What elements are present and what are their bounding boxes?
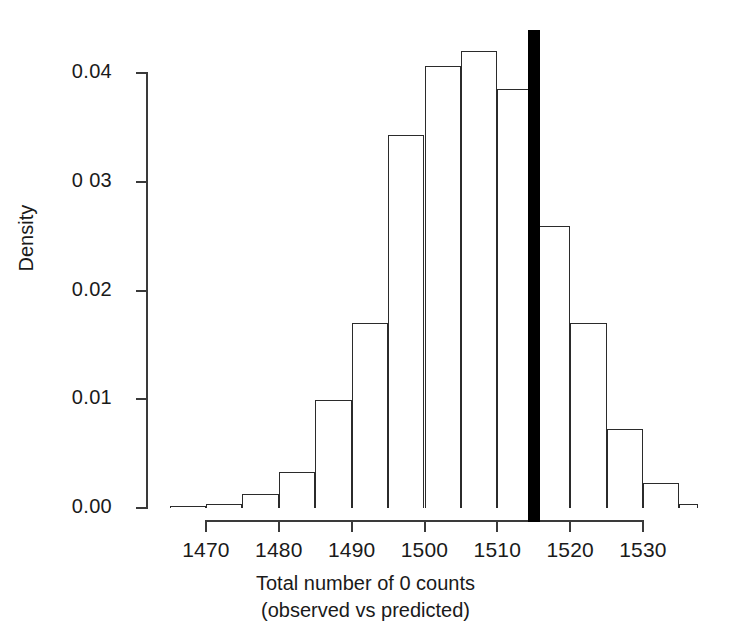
x-axis-tick (351, 520, 353, 532)
x-axis-tick (278, 520, 280, 532)
y-axis-tick-label: 0 03 (72, 169, 130, 192)
y-axis-tick (136, 290, 148, 292)
y-axis-tick (136, 507, 148, 509)
histogram-bar (206, 504, 242, 508)
histogram-bar (679, 504, 697, 508)
histogram-bar (279, 472, 315, 508)
y-axis-tick (136, 72, 148, 74)
y-axis-tick-label: 0.01 (72, 386, 130, 409)
histogram-figure: 0.000.010.020 030.04 1470148014901500151… (0, 0, 731, 644)
histogram-bar (315, 400, 351, 508)
y-axis-tick (136, 181, 148, 183)
x-axis-tick (642, 520, 644, 532)
x-axis-tick (496, 520, 498, 532)
histogram-bar (170, 506, 206, 508)
x-axis-title-line1: Total number of 0 counts (0, 570, 731, 597)
histogram-bar (643, 483, 679, 508)
x-axis-tick (569, 520, 571, 532)
y-axis-tick-label: 0.00 (72, 495, 130, 518)
histogram-bar (242, 494, 278, 508)
histogram-bar (607, 429, 643, 508)
x-axis-tick-label: 1530 (598, 538, 688, 562)
histogram-bar (570, 323, 606, 508)
histogram-bar (388, 135, 424, 508)
histogram-bar (352, 323, 388, 508)
x-axis-title: Total number of 0 counts (observed vs pr… (0, 570, 731, 624)
histogram-bar (425, 66, 461, 508)
histogram-bar (461, 51, 497, 508)
x-axis-title-line2: (observed vs predicted) (0, 597, 731, 624)
y-axis-title: Density (15, 232, 38, 272)
y-axis-tick-label: 0.02 (72, 278, 130, 301)
y-axis-tick-label: 0.04 (72, 60, 130, 83)
x-axis-tick (205, 520, 207, 532)
x-axis-tick (424, 520, 426, 532)
plot-area (148, 30, 688, 508)
observed-value-line (528, 30, 540, 522)
y-axis-tick (136, 398, 148, 400)
